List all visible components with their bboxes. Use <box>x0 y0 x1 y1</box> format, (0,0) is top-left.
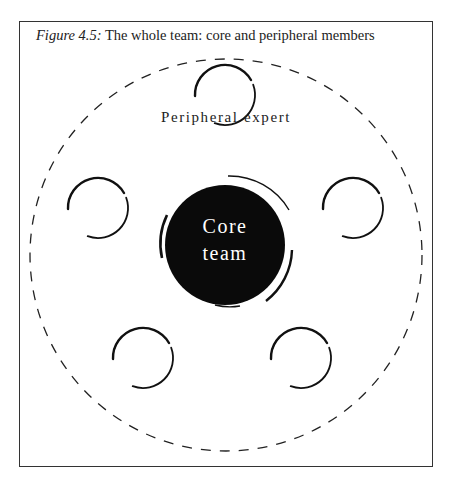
peripheral-expert-circle <box>113 328 173 388</box>
peripheral-circle-arc <box>133 348 173 388</box>
core-team-label: Core team <box>166 213 284 267</box>
peripheral-expert-label: Peripheral expert <box>0 109 452 126</box>
peripheral-circle-arc <box>323 178 379 209</box>
peripheral-circle-arc <box>271 328 327 359</box>
peripheral-circle-arc <box>88 198 128 238</box>
peripheral-circle-arc <box>343 198 383 238</box>
peripheral-expert-circle <box>323 178 383 238</box>
core-label-line2: team <box>166 240 284 267</box>
core-label-line1: Core <box>166 213 284 240</box>
peripheral-circle-arc <box>291 348 331 388</box>
peripheral-expert-circle <box>68 178 128 238</box>
peripheral-circle-arc <box>68 178 124 209</box>
peripheral-circle-arc <box>113 328 169 359</box>
peripheral-circle-arc <box>195 65 251 96</box>
peripheral-expert-circle <box>271 328 331 388</box>
